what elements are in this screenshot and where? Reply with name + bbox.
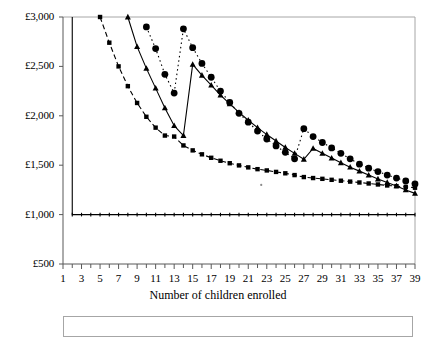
series-squares-marker bbox=[228, 161, 232, 165]
series-squares-marker bbox=[339, 179, 343, 183]
series-squares-marker bbox=[357, 180, 361, 184]
series-circles-marker bbox=[300, 125, 307, 132]
series-triangles-line bbox=[128, 17, 415, 193]
y-tick-label: £1,500 bbox=[0, 158, 54, 170]
series-squares-marker bbox=[135, 101, 139, 105]
series-squares-line bbox=[100, 17, 415, 188]
series-circles-marker bbox=[319, 139, 326, 146]
series-circles-marker bbox=[245, 119, 252, 126]
series-circles-marker bbox=[208, 74, 215, 81]
series-triangles-marker bbox=[319, 150, 325, 156]
series-squares-marker bbox=[237, 163, 241, 167]
annotation-layer bbox=[260, 184, 262, 186]
series-triangles-marker bbox=[329, 155, 335, 161]
series-circles-marker bbox=[199, 60, 206, 67]
series-squares-marker bbox=[144, 115, 148, 119]
series-circles-marker bbox=[180, 25, 187, 32]
series-circles-marker bbox=[236, 110, 243, 117]
series-circles-marker bbox=[328, 145, 335, 152]
series-squares-marker bbox=[153, 125, 157, 129]
series-squares-marker bbox=[265, 168, 269, 172]
series-circles-marker bbox=[226, 99, 233, 106]
series-squares-marker bbox=[348, 179, 352, 183]
series-squares-marker bbox=[181, 143, 185, 147]
series-triangles bbox=[125, 14, 418, 196]
series-circles-marker bbox=[161, 71, 168, 78]
series-circles-line bbox=[146, 27, 415, 184]
series-triangles-marker bbox=[310, 145, 316, 151]
series-squares-marker bbox=[292, 173, 296, 177]
series-squares-marker bbox=[376, 182, 380, 186]
series-circles-marker bbox=[402, 178, 409, 185]
series-circles-marker bbox=[412, 181, 419, 188]
series-squares-marker bbox=[172, 134, 176, 138]
series-circles-marker bbox=[217, 88, 224, 95]
stray-dot bbox=[260, 184, 262, 186]
series-squares-marker bbox=[255, 167, 259, 171]
series-squares-marker bbox=[366, 181, 370, 185]
series-triangles-marker bbox=[190, 61, 196, 67]
series-squares-marker bbox=[116, 64, 120, 68]
series-squares-marker bbox=[283, 171, 287, 175]
series-circles-marker bbox=[291, 155, 298, 162]
y-tick-label: £2,500 bbox=[0, 59, 54, 71]
series-squares-marker bbox=[274, 170, 278, 174]
series-squares-marker bbox=[218, 159, 222, 163]
series-circles-marker bbox=[143, 23, 150, 30]
series-squares-marker bbox=[246, 165, 250, 169]
series-squares-marker bbox=[311, 176, 315, 180]
series-squares-marker bbox=[209, 156, 213, 160]
series-triangles-marker bbox=[153, 85, 159, 91]
x-axis-title: Number of children enrolled bbox=[0, 288, 436, 303]
series-squares-marker bbox=[329, 178, 333, 182]
y-tick-label: £500 bbox=[0, 257, 54, 269]
series-circles-marker bbox=[356, 161, 363, 168]
series-circles-marker bbox=[393, 175, 400, 182]
series-squares-marker bbox=[200, 152, 204, 156]
axis-layer bbox=[59, 17, 415, 269]
series-squares-marker bbox=[107, 40, 111, 44]
series-circles-marker bbox=[347, 155, 354, 162]
series-circles-marker bbox=[171, 90, 178, 97]
y-tick-label: £1,000 bbox=[0, 208, 54, 220]
x-tick-label: 39 bbox=[404, 272, 426, 284]
series-triangles-marker bbox=[338, 160, 344, 166]
series-circles-marker bbox=[189, 44, 196, 51]
series-circles-marker bbox=[254, 128, 261, 135]
series-squares-marker bbox=[302, 175, 306, 179]
series-triangles-marker bbox=[134, 43, 140, 49]
y-tick-label: £2,000 bbox=[0, 109, 54, 121]
series-circles-marker bbox=[273, 143, 280, 150]
chart-figure: £3,000£2,500£2,000£1,500£1,000£500 13579… bbox=[0, 0, 436, 337]
series-circles-marker bbox=[310, 133, 317, 140]
series-triangles-marker bbox=[171, 122, 177, 128]
series-layer bbox=[72, 14, 418, 217]
series-squares-marker bbox=[163, 133, 167, 137]
y-tick-label: £3,000 bbox=[0, 10, 54, 22]
series-circles-marker bbox=[384, 172, 391, 179]
series-squares-marker bbox=[190, 148, 194, 152]
series-circles-marker bbox=[263, 136, 270, 143]
series-squares bbox=[98, 15, 417, 190]
plot-area bbox=[0, 0, 436, 337]
series-squares-marker bbox=[98, 15, 102, 19]
series-squares-marker bbox=[320, 177, 324, 181]
series-circles-marker bbox=[152, 45, 159, 52]
series-circles-marker bbox=[365, 165, 372, 172]
series-circles-marker bbox=[375, 168, 382, 175]
series-triangles-marker bbox=[143, 65, 149, 71]
legend-box bbox=[63, 316, 413, 337]
series-triangles-marker bbox=[162, 105, 168, 111]
series-circles-marker bbox=[282, 149, 289, 156]
series-circles-marker bbox=[337, 150, 344, 157]
series-squares-marker bbox=[126, 84, 130, 88]
series-circles bbox=[143, 23, 418, 187]
